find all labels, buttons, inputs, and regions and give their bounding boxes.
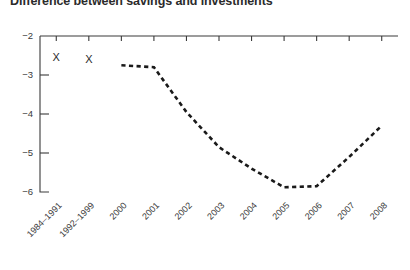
y-tick-label: −5: [22, 147, 33, 158]
chart-figure: Difference between savings and investmen…: [0, 0, 410, 270]
x-marker: X: [53, 51, 61, 63]
data-series: [121, 65, 381, 187]
y-tick-label: −4: [22, 108, 33, 119]
x-marker: X: [85, 53, 93, 65]
x-tick-label: 2006: [303, 200, 324, 221]
y-tick-label: −6: [22, 186, 33, 197]
x-tick-label: 2002: [173, 200, 194, 221]
x-markers: XX: [53, 51, 94, 65]
x-tick-label: 2000: [108, 200, 129, 221]
x-tick-label: 2001: [140, 200, 161, 221]
x-tick-label: 2005: [270, 200, 291, 221]
series-line-difference: [121, 65, 381, 187]
x-tick-label: 2008: [368, 200, 389, 221]
y-tick-label: −3: [22, 69, 33, 80]
line-chart-plot: −2−3−4−5−6 1984–19911992–199920002001200…: [0, 0, 410, 270]
x-tick-label: 2004: [238, 200, 259, 221]
x-tick-label: 2003: [205, 200, 226, 221]
y-axis: −2−3−4−5−6: [22, 30, 49, 197]
x-tick-label: 2007: [335, 200, 356, 221]
x-tick-label: 1992–1999: [57, 200, 96, 239]
y-tick-label: −2: [22, 30, 33, 41]
